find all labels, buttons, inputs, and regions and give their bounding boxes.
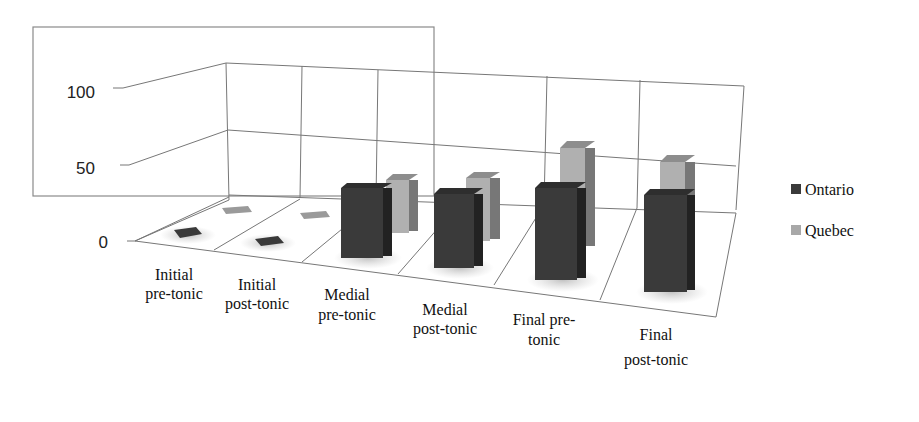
x-label-4-line1: Final pre- [513,311,576,329]
x-label-5-line2: post-tonic [624,351,688,369]
x-axis-labels: Initial pre-tonic Initial post-tonic Med… [145,266,688,369]
legend-label-quebec: Quebec [805,222,854,239]
bar-quebec-initial-pretonic[interactable] [222,206,252,214]
y-tick-50: 50 [76,159,95,178]
chart-canvas: 100 50 0 [0,0,919,422]
legend-swatch-quebec [791,225,801,235]
bar-ontario-final-pretonic[interactable] [535,188,577,280]
x-label-1-line1: Initial [238,276,277,293]
x-label-5-line1: Final [640,326,673,343]
x-label-0-line2: pre-tonic [145,285,203,303]
bar-ontario-medial-pretonic[interactable] [341,188,383,258]
x-label-2-line1: Medial [324,286,370,303]
bar-ontario-final-posttonic[interactable] [644,195,687,292]
x-label-3-line1: Medial [422,301,468,318]
legend: Ontario Quebec [791,181,854,239]
bar-ontario-medial-posttonic[interactable] [434,194,474,268]
legend-label-ontario: Ontario [805,181,854,198]
x-label-1-line2: post-tonic [225,295,289,313]
y-tick-100: 100 [67,83,95,102]
bar-quebec-initial-posttonic[interactable] [300,211,330,219]
x-label-3-line2: post-tonic [413,320,477,338]
y-tick-0: 0 [99,233,108,252]
x-label-2-line2: pre-tonic [318,306,376,324]
x-label-4-line2: tonic [528,331,560,348]
x-label-0-line1: Initial [155,266,194,283]
legend-swatch-ontario [791,184,801,194]
